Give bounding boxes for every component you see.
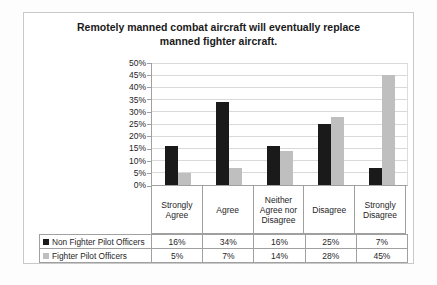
bar [318, 124, 331, 185]
bar-groups [152, 63, 407, 185]
table-row: Fighter Pilot Officers5%7%14%28%45% [40, 249, 407, 262]
category-label: Agree [202, 186, 253, 233]
bar-group [356, 63, 407, 185]
bar [216, 102, 229, 185]
legend-swatch-icon [43, 253, 49, 259]
bar-group [203, 63, 254, 185]
y-tick-label: 0% [104, 180, 146, 190]
bar [382, 75, 395, 185]
category-label: Strongly Disagree [354, 186, 405, 233]
bar [369, 168, 382, 185]
legend-swatch-icon [43, 239, 49, 245]
bar-group [305, 63, 356, 185]
value-cell: 5% [152, 249, 203, 262]
value-cell: 16% [152, 235, 203, 248]
chart-title: Remotely manned combat aircraft will eve… [63, 20, 375, 48]
bar [331, 117, 344, 185]
y-tick-label: 30% [104, 107, 146, 117]
table-row: Non Fighter Pilot Officers16%34%16%25%7% [40, 235, 407, 249]
plot-area [151, 63, 408, 186]
category-label: Disagree [303, 186, 354, 233]
y-tick-label: 40% [104, 82, 146, 92]
series-name: Fighter Pilot Officers [52, 251, 127, 261]
bar [178, 173, 191, 185]
data-table: Non Fighter Pilot Officers16%34%16%25%7%… [39, 234, 408, 263]
value-cell: 25% [306, 235, 357, 248]
value-cell: 16% [254, 235, 305, 248]
y-tick-label: 5% [104, 168, 146, 178]
legend-cell: Fighter Pilot Officers [40, 249, 152, 262]
y-tick-label: 10% [104, 156, 146, 166]
bar [229, 168, 242, 185]
bar [267, 146, 280, 185]
category-label: Strongly Agree [151, 186, 202, 233]
y-tick-label: 35% [104, 95, 146, 105]
category-label: Neither Agree nor Disagree [253, 186, 304, 233]
y-tick-label: 25% [104, 119, 146, 129]
y-tick-label: 20% [104, 131, 146, 141]
value-cell: 34% [203, 235, 254, 248]
y-tick-label: 15% [104, 143, 146, 153]
category-header-row: Strongly AgreeAgreeNeither Agree nor Dis… [151, 186, 406, 234]
series-name: Non Fighter Pilot Officers [52, 237, 145, 247]
bar [165, 146, 178, 185]
value-cell: 7% [203, 249, 254, 262]
value-cell: 28% [306, 249, 357, 262]
bar-group [254, 63, 305, 185]
value-cell: 7% [357, 235, 407, 248]
y-axis-labels: 0%5%10%15%20%25%30%35%40%45%50% [104, 63, 146, 185]
y-tick-label: 50% [104, 58, 146, 68]
bar-group [152, 63, 203, 185]
bar [280, 151, 293, 185]
chart-frame: Remotely manned combat aircraft will eve… [23, 12, 414, 264]
value-cell: 45% [357, 249, 407, 262]
y-tick-label: 45% [104, 70, 146, 80]
screenshot-root: { "chart_data": { "type": "bar", "title"… [0, 0, 437, 285]
value-cell: 14% [254, 249, 305, 262]
legend-cell: Non Fighter Pilot Officers [40, 235, 152, 248]
